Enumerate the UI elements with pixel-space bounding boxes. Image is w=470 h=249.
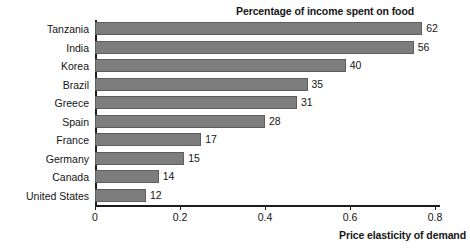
bar-row: Greece31 xyxy=(0,94,470,112)
x-tick xyxy=(95,205,96,210)
x-tick xyxy=(265,205,266,210)
x-axis-line xyxy=(95,205,440,207)
bar-value-label: 62 xyxy=(426,21,438,36)
category-label: France xyxy=(0,131,89,149)
bar-row: Germany15 xyxy=(0,150,470,168)
bar xyxy=(95,22,422,35)
chart-title: Percentage of income spent on food xyxy=(236,5,466,17)
category-label: Greece xyxy=(0,94,89,112)
bar xyxy=(95,41,414,54)
bar-row: India56 xyxy=(0,39,470,57)
bar xyxy=(95,189,146,202)
bar xyxy=(95,133,201,146)
x-tick-label: 0.2 xyxy=(160,211,200,223)
bar-value-label: 15 xyxy=(188,151,200,166)
x-tick-label: 0.6 xyxy=(330,211,370,223)
x-tick-label: 0.8 xyxy=(415,211,455,223)
bar xyxy=(95,115,265,128)
x-tick xyxy=(180,205,181,210)
bar-value-label: 28 xyxy=(269,114,281,129)
category-label: Germany xyxy=(0,150,89,168)
bar-row: Korea40 xyxy=(0,57,470,75)
bar-value-label: 40 xyxy=(350,58,362,73)
x-tick-label: 0 xyxy=(75,211,115,223)
bar-value-label: 17 xyxy=(205,132,217,147)
category-label: Korea xyxy=(0,57,89,75)
bar xyxy=(95,96,297,109)
bar xyxy=(95,59,346,72)
bar-value-label: 31 xyxy=(301,95,313,110)
x-tick-label: 0.4 xyxy=(245,211,285,223)
bar-value-label: 12 xyxy=(150,188,162,203)
bar-row: United States12 xyxy=(0,187,470,205)
category-label: Spain xyxy=(0,113,89,131)
bar xyxy=(95,170,159,183)
category-label: India xyxy=(0,39,89,57)
category-label: Brazil xyxy=(0,76,89,94)
x-axis-title: Price elasticity of demand xyxy=(240,229,466,241)
bar-row: Spain28 xyxy=(0,113,470,131)
category-label: Canada xyxy=(0,168,89,186)
bar-row: Tanzania62 xyxy=(0,20,470,38)
x-tick xyxy=(435,205,436,210)
bar-value-label: 56 xyxy=(418,40,430,55)
chart-page: Percentage of income spent on food Tanza… xyxy=(0,0,470,249)
x-tick xyxy=(350,205,351,210)
bar-row: Canada14 xyxy=(0,168,470,186)
bar-row: France17 xyxy=(0,131,470,149)
category-label: Tanzania xyxy=(0,20,89,38)
bar-value-label: 35 xyxy=(312,77,324,92)
category-label: United States xyxy=(0,187,89,205)
bar-row: Brazil35 xyxy=(0,76,470,94)
bar xyxy=(95,78,308,91)
bar-value-label: 14 xyxy=(163,169,175,184)
bar xyxy=(95,152,184,165)
